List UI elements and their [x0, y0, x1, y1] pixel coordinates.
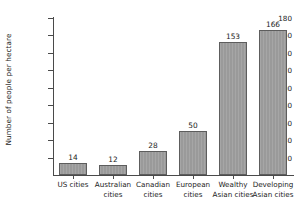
bar-value-label: 50: [173, 121, 213, 131]
x-tick-1: [113, 175, 114, 179]
bar: [59, 163, 88, 175]
x-tick-4: [233, 175, 234, 179]
bar: [99, 165, 128, 175]
x-axis-label-line: Asian cities: [249, 190, 297, 200]
bar: [139, 151, 168, 175]
bar-value-label: 153: [213, 32, 253, 42]
bar-value-label: 14: [53, 153, 93, 163]
x-tick-3: [193, 175, 194, 179]
x-axis-spine: [53, 175, 294, 176]
y-axis-title: Number of people per hectare: [0, 0, 18, 178]
bar: [219, 42, 248, 175]
y-axis-title-label: Number of people per hectare: [5, 33, 14, 145]
x-axis-label-line: Developing: [249, 180, 297, 190]
bar-chart-figure: Number of people per hectare 20406080100…: [0, 0, 299, 204]
bar: [179, 131, 208, 175]
bar-value-label: 12: [93, 155, 133, 165]
plot-area: [53, 18, 293, 175]
bar: [259, 30, 288, 175]
bar-value-label: 28: [133, 141, 173, 151]
bar-value-label: 166: [253, 20, 293, 30]
x-tick-0: [73, 175, 74, 179]
x-tick-2: [153, 175, 154, 179]
x-tick-5: [273, 175, 274, 179]
x-axis-label: DevelopingAsian cities: [249, 180, 297, 199]
